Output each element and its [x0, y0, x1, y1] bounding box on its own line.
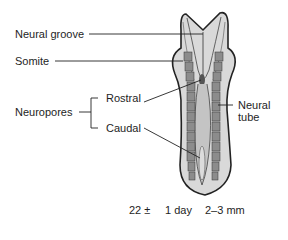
label-neural-tube-1: Neural — [238, 99, 270, 111]
caption-age: 22 ± — [129, 204, 150, 216]
caption-age-range: 1 day — [165, 204, 192, 216]
label-caudal: Caudal — [106, 122, 141, 134]
label-neuropores: Neuropores — [15, 106, 72, 118]
label-somite: Somite — [15, 55, 49, 67]
caption-size: 2–3 mm — [205, 204, 245, 216]
label-rostral: Rostral — [106, 92, 141, 104]
label-neural-groove: Neural groove — [15, 28, 84, 40]
label-neural-tube-2: tube — [238, 111, 259, 123]
